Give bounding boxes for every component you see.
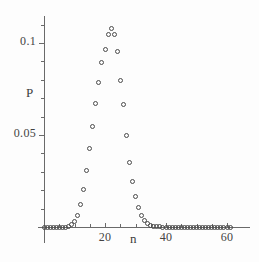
y-axis-major-tick [39,43,45,44]
data-point [90,124,95,129]
y-axis-tick-label: 0.05 [0,126,36,141]
x-axis-tick-label: 20 [85,230,125,245]
y-axis-minor-tick [41,61,45,62]
y-axis-minor-tick [41,172,45,173]
data-point [118,78,123,83]
data-point [81,187,86,192]
data-point [124,133,129,138]
y-axis-minor-tick [41,190,45,191]
data-point [109,26,114,31]
data-point [130,179,135,184]
data-point [96,80,101,85]
data-point [103,47,108,52]
data-point [87,146,92,151]
chart-figure: P n 0.050.1 204060 [0,0,259,262]
data-point [93,101,98,106]
data-point [84,168,89,173]
y-axis-minor-tick [41,117,45,118]
data-point [136,205,141,210]
data-point [78,202,83,207]
data-point [127,160,132,165]
y-axis-title: P [26,85,33,101]
x-axis-minor-tick [120,224,121,228]
x-axis-tick-label: 60 [207,230,247,245]
x-axis-minor-tick [136,224,137,228]
y-axis-minor-tick [41,80,45,81]
data-point [99,60,104,65]
y-axis-minor-tick [41,98,45,99]
data-point [106,32,111,37]
x-axis-tick-label: 40 [146,230,186,245]
data-point [133,194,138,199]
y-axis-tick-label: 0.1 [0,34,36,49]
data-point [121,102,126,107]
x-axis-title: n [130,231,137,247]
x-axis-major-tick [105,223,106,228]
data-point [75,213,80,218]
y-axis-major-tick [39,135,45,136]
data-point [112,32,117,37]
x-axis-minor-tick [90,224,91,228]
data-point [115,49,120,54]
y-axis-minor-tick [41,209,45,210]
y-axis-minor-tick [41,25,45,26]
data-point [72,219,77,224]
x-axis-minor-tick [75,224,76,228]
scatter-plot-area: P n 0.050.1 204060 [0,0,259,262]
y-axis-minor-tick [41,153,45,154]
data-point [228,225,233,230]
